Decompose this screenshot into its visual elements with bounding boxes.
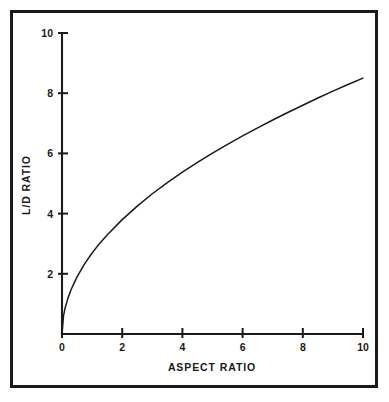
x-axis-title: ASPECT RATIO — [168, 361, 256, 373]
x-tick-label: 10 — [357, 341, 369, 353]
data-series-group — [62, 78, 363, 334]
y-axis-group: 246810 L/D RATIO — [20, 27, 68, 334]
y-axis-title: L/D RATIO — [20, 155, 32, 215]
x-tick-label: 0 — [59, 341, 65, 353]
x-tick-label: 6 — [240, 341, 246, 353]
x-tick-label: 4 — [179, 341, 185, 353]
x-tick-label: 8 — [300, 341, 306, 353]
x-tick-label: 2 — [119, 341, 125, 353]
y-tick-label: 4 — [47, 208, 53, 220]
y-tick-label: 2 — [47, 268, 53, 280]
x-axis-group: 0246810 ASPECT RATIO — [59, 328, 369, 373]
y-tick-label: 6 — [47, 147, 53, 159]
figure-root: 246810 L/D RATIO 0246810 ASPECT RATIO — [0, 0, 389, 402]
plot-canvas: 246810 L/D RATIO 0246810 ASPECT RATIO — [0, 0, 389, 402]
data-curve-ld-ratio — [62, 78, 363, 334]
y-tick-label: 10 — [41, 27, 53, 39]
x-axis-tick-labels: 0246810 — [59, 341, 369, 353]
y-tick-label: 8 — [47, 87, 53, 99]
y-axis-tick-labels: 246810 — [41, 27, 53, 280]
